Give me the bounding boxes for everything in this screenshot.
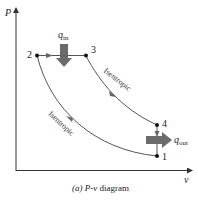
pv-diagram	[0, 0, 198, 200]
point-label-1: 1	[162, 152, 167, 162]
point-label-4: 4	[162, 119, 167, 129]
flow-arrow-2-3	[46, 53, 53, 58]
point-label-2: 2	[27, 50, 32, 60]
caption-title: P-v	[85, 183, 98, 193]
flow-arrow-1-2	[66, 116, 73, 122]
heat-out-label: qout	[174, 135, 188, 147]
state-point-2	[35, 54, 39, 58]
x-axis-label: v	[184, 175, 188, 185]
figure-caption: (a) P-v diagram	[72, 184, 129, 193]
heat-in-label: qin	[58, 30, 68, 42]
caption-prefix: (a)	[72, 183, 83, 193]
point-label-3: 3	[91, 45, 96, 55]
state-point-4	[155, 123, 159, 127]
flow-arrow-3-4	[109, 91, 116, 97]
process-3-4-isentropic	[86, 56, 157, 125]
process-1-2-isentropic	[37, 55, 157, 156]
heat-out-arrow	[146, 132, 172, 148]
state-point-3	[84, 54, 88, 58]
y-axis-label: P	[5, 8, 11, 18]
caption-suffix: diagram	[100, 183, 130, 193]
state-point-1	[155, 154, 159, 158]
